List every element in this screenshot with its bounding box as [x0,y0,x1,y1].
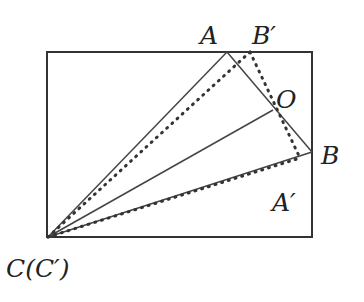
label-B: B [320,141,339,170]
geometry-diagram: A B′ O B A′ C(C′) [0,0,364,302]
segment-CO [48,110,273,237]
label-C: C(C′) [6,254,69,283]
dotted-segment-CBprime [48,52,250,237]
label-B-prime: B′ [251,21,276,50]
label-A: A [198,21,218,50]
segment-AB [227,52,312,152]
label-O: O [276,85,297,114]
label-A-prime: A′ [270,188,296,217]
segment-CA [48,52,227,237]
